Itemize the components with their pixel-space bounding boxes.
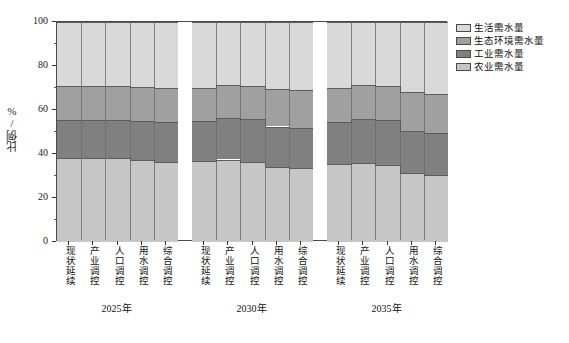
bar-segment[interactable] [289,90,313,127]
bar-segment[interactable] [351,119,375,163]
bar-segment[interactable] [351,22,375,85]
bar[interactable] [105,22,129,240]
bar-segment[interactable] [105,86,129,120]
bar-segment[interactable] [192,88,216,121]
legend-item[interactable]: 工业需水量 [456,48,566,60]
bar-segment[interactable] [154,162,178,242]
bar-segment[interactable] [265,89,289,126]
bar-segment[interactable] [105,22,129,86]
bar[interactable] [351,22,375,240]
bar-segment[interactable] [375,120,399,165]
boundary-connector [289,167,290,169]
bar[interactable] [57,22,81,240]
bar-segment[interactable] [57,120,81,159]
bar-segment[interactable] [375,165,399,242]
bar-segment[interactable] [81,120,105,159]
x-tick-label: 人口调控 [245,246,259,286]
bar[interactable] [265,22,289,240]
bar[interactable] [154,22,178,240]
legend-item[interactable]: 农业需水量 [456,61,566,73]
bar-segment[interactable] [81,22,105,86]
bar-segment[interactable] [105,120,129,159]
y-tick-label: 60 [22,104,48,114]
x-tick-mark [411,241,412,245]
bar-segment[interactable] [154,122,178,162]
bar[interactable] [289,22,313,240]
bar-segment[interactable] [216,160,240,243]
bar-segment[interactable] [240,22,264,86]
bar-segment[interactable] [351,85,375,119]
x-tick-mark [141,241,142,245]
bar-segment[interactable] [424,175,448,242]
bar-segment[interactable] [289,168,313,242]
bar-segment[interactable] [130,160,154,243]
bar-segment[interactable] [216,22,240,85]
bar-segment[interactable] [327,122,351,164]
legend-item[interactable]: 生活需水量 [456,22,566,34]
boundary-connector [154,160,155,163]
boundary-connector [375,163,376,166]
bar-segment[interactable] [265,22,289,89]
bar-segment[interactable] [400,173,424,242]
bar-segment[interactable] [216,85,240,118]
bar-segment[interactable] [192,161,216,242]
x-tick-label: 综合调控 [428,246,442,286]
bar-segment[interactable] [265,167,289,242]
plot-area [56,21,447,241]
bar-segment[interactable] [289,128,313,169]
bar-group [192,22,313,240]
bar-segment[interactable] [81,86,105,120]
bar-segment[interactable] [130,121,154,160]
bar-segment[interactable] [240,86,264,119]
bar-segment[interactable] [289,22,313,90]
bar-segment[interactable] [57,158,81,242]
bar-segment[interactable] [351,163,375,242]
bar[interactable] [192,22,216,240]
bar-segment[interactable] [154,88,178,122]
boundary-connector [130,86,131,88]
bar-segment[interactable] [424,94,448,134]
bar-segment[interactable] [57,86,81,120]
x-tick-mark [68,241,69,245]
bar-segment[interactable] [130,22,154,87]
bar-segment[interactable] [400,131,424,173]
boundary-connector [130,158,131,160]
bar-segment[interactable] [130,87,154,121]
bar-segment[interactable] [327,22,351,88]
bar-segment[interactable] [327,164,351,242]
bar-segment[interactable] [265,127,289,168]
bar-segment[interactable] [240,119,264,162]
bar[interactable] [130,22,154,240]
bar-segment[interactable] [81,158,105,242]
bar-segment[interactable] [192,22,216,88]
bar-segment[interactable] [400,92,424,131]
legend-label: 生活需水量 [474,23,524,33]
boundary-connector [216,85,217,89]
bar[interactable] [400,22,424,240]
bar-segment[interactable] [327,88,351,122]
bar-segment[interactable] [375,22,399,86]
bar[interactable] [424,22,448,240]
bar-segment[interactable] [105,158,129,242]
bar-segment[interactable] [424,133,448,175]
bar[interactable] [240,22,264,240]
bar-separator [216,22,217,240]
bar-segment[interactable] [192,121,216,161]
bar[interactable] [216,22,240,240]
bar[interactable] [375,22,399,240]
bar-segment[interactable] [424,22,448,94]
x-tick-label: 产业调控 [85,246,99,286]
bar[interactable] [327,22,351,240]
bar-segment[interactable] [400,22,424,92]
bar-group [57,22,178,240]
bar-segment[interactable] [216,118,240,160]
legend-label: 生态环境需水量 [474,36,544,46]
legend-item[interactable]: 生态环境需水量 [456,35,566,47]
x-tick-label: 人口调控 [110,246,124,286]
bar[interactable] [81,22,105,240]
bar-segment[interactable] [154,22,178,88]
bar-segment[interactable] [57,22,81,86]
group-label: 2030年 [212,300,292,315]
bar-segment[interactable] [240,162,264,242]
bar-segment[interactable] [375,86,399,120]
